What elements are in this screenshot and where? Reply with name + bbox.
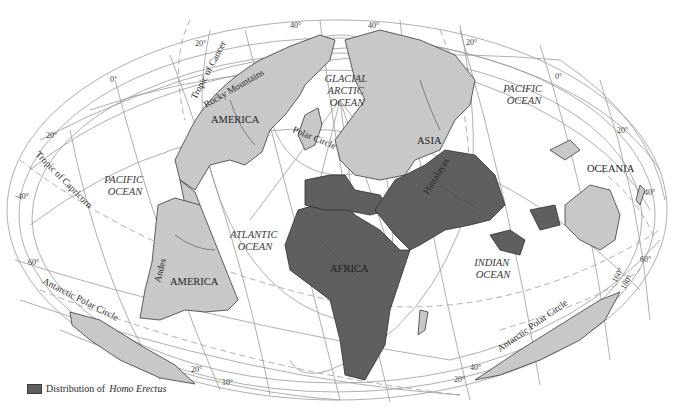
homo-erectus-africa	[285, 205, 410, 380]
deg-20-top-right: 20°	[466, 38, 477, 47]
deg-20-top-left: 20°	[195, 39, 206, 48]
antarctica-right	[475, 292, 620, 380]
legend-label-prefix: Distribution of	[46, 383, 105, 394]
deg-20-left: 20°	[46, 131, 57, 140]
antarctica-left	[70, 312, 195, 384]
homo-erectus-se-asia	[490, 230, 525, 255]
label-pacific-ocean-west: PACIFIC OCEAN	[103, 174, 146, 197]
deg-60-right: 60°	[640, 255, 651, 264]
new-guinea	[550, 140, 580, 160]
australia	[565, 185, 620, 250]
label-atlantic-ocean: ATLANTIC OCEAN	[229, 229, 280, 252]
legend: Distribution of Homo Erectus	[27, 383, 166, 394]
label-south-america: AMERICA	[170, 276, 219, 287]
deg-40-left: -40°	[15, 192, 29, 201]
label-oceania: OCEANIA	[587, 163, 635, 174]
deg-40-top-right: 40°	[368, 21, 379, 30]
deg-0-left: 0°	[110, 75, 117, 84]
deg-20-bottom-left: 20°	[191, 365, 202, 374]
deg-10-bottom: 10°	[222, 378, 233, 387]
label-asia: ASIA	[417, 135, 442, 146]
deg-20-bottom-right: 20°	[454, 375, 465, 384]
deg-60-left: 60°	[28, 258, 39, 267]
label-africa: AFRICA	[330, 263, 369, 274]
madagascar	[418, 310, 428, 335]
legend-label-species: Homo Erectus	[109, 383, 166, 394]
legend-swatch-homo-erectus	[27, 384, 42, 394]
label-pacific-ocean-east: PACIFIC OCEAN	[502, 83, 545, 106]
deg-40-bottom-right: 40°	[470, 363, 481, 372]
deg-40-right: 40°	[644, 188, 655, 197]
label-north-america: AMERICA	[211, 114, 260, 125]
deg-20-right: 20°	[617, 126, 628, 135]
deg-40-top-left: 40°	[290, 21, 301, 30]
label-arctic-ocean: GLACIAL ARCTIC OCEAN	[324, 73, 369, 108]
deg-0-right: 0°	[555, 72, 562, 81]
homo-erectus-indonesia	[530, 205, 560, 230]
label-indian-ocean: INDIAN OCEAN	[473, 257, 512, 280]
world-map: AMERICA AMERICA ASIA AFRICA OCEANIA GLAC…	[0, 0, 673, 412]
